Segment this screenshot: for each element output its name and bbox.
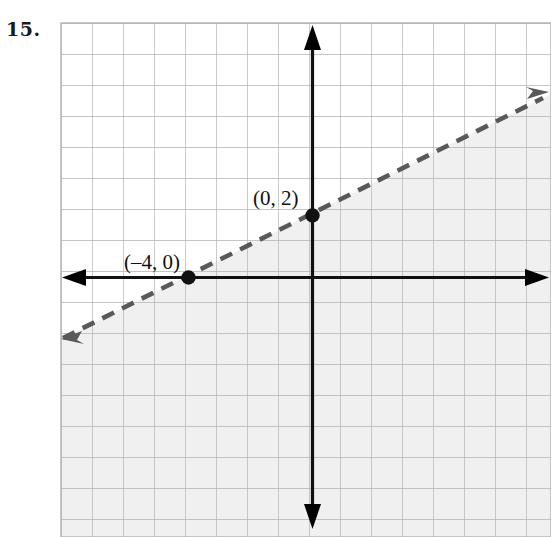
coordinate-graph: (0, 2) (–4, 0)	[0, 0, 551, 537]
grid-lines	[61, 23, 551, 537]
plotted-point-x-intercept	[181, 270, 195, 284]
point-label-x-intercept: (–4, 0)	[124, 250, 180, 274]
graph-canvas: (0, 2) (–4, 0)	[0, 0, 551, 537]
plotted-point-y-intercept	[305, 208, 319, 222]
point-label-y-intercept: (0, 2)	[253, 186, 299, 210]
